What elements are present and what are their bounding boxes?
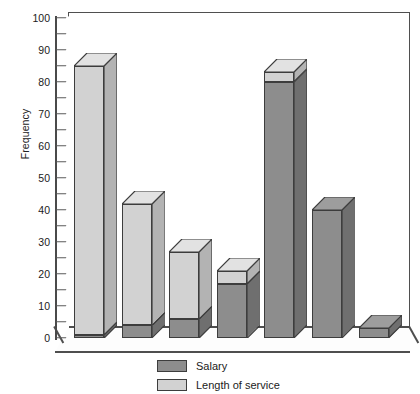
bar-segment-salary-7 [359,328,389,338]
y-tick-major-50 [56,177,67,178]
y-tick-minor-85 [56,65,67,66]
legend-item-salary: Salary [157,357,407,374]
y-tick-minor-25 [56,257,67,258]
legend-label-salary: Salary [196,360,227,372]
y-tick-major-40 [56,209,67,210]
y-tick-major-20 [56,273,67,274]
bar-chart: Frequency 0102030405060708090100 SalaryL… [0,0,420,394]
y-tick-minor-5 [56,321,67,322]
y-tick-minor-95 [56,33,67,34]
legend-label-service: Length of service [196,379,280,391]
legend-item-service: Length of service [157,376,407,393]
bar-group-7 [0,0,420,394]
y-tick-major-100 [56,17,67,18]
y-tick-major-10 [56,305,67,306]
y-tick-major-80 [56,81,67,82]
y-tick-major-30 [56,241,67,242]
bar-top-cap-7 [359,315,402,329]
y-tick-minor-35 [56,225,67,226]
y-tick-minor-45 [56,193,67,194]
y-tick-minor-15 [56,289,67,290]
y-tick-major-0 [56,337,67,338]
bars-area [0,0,420,394]
y-tick-major-60 [56,145,67,146]
legend-swatch-salary [157,360,187,372]
y-tick-minor-65 [56,129,67,130]
y-tick-major-70 [56,113,67,114]
y-tick-minor-55 [56,161,67,162]
legend-swatch-service [157,379,187,391]
y-tick-minor-75 [56,97,67,98]
chart-legend: SalaryLength of service [157,357,407,394]
y-tick-major-90 [56,49,67,50]
